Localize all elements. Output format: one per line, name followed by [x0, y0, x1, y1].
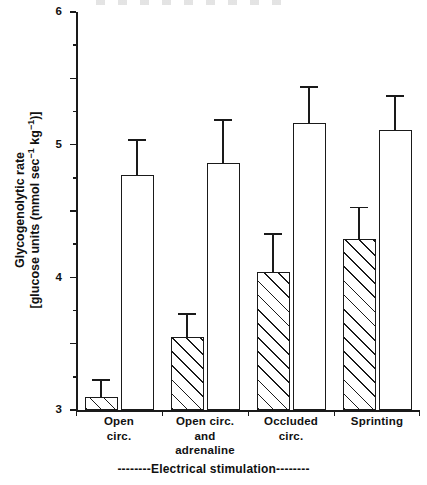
y-tick-minor	[73, 44, 77, 45]
bar	[257, 272, 290, 410]
y-axis-title-sup1: −1	[26, 148, 36, 158]
bar	[85, 397, 118, 410]
error-bar-stem	[272, 234, 274, 272]
y-axis-line	[76, 12, 78, 410]
error-bar-cap	[178, 313, 196, 315]
error-bar-stem	[394, 96, 396, 130]
y-axis-title-line2-post: )]	[28, 112, 42, 120]
error-bar-cap	[92, 379, 110, 381]
x-group-label-line: adrenaline	[150, 443, 260, 458]
x-group-label-line: Sprinting	[322, 414, 427, 429]
footer-note: --------Electrical stimulation--------	[0, 462, 427, 476]
error-bar-cap	[300, 86, 318, 88]
y-tick-major: 6	[70, 11, 76, 12]
error-bar-cap	[386, 95, 404, 97]
scan-artifact	[96, 0, 286, 5]
bar	[293, 123, 326, 410]
y-axis-title-sup2: −1	[26, 120, 36, 130]
y-tick-label: 3	[56, 403, 62, 415]
y-axis-title-line2-mid: kg	[28, 130, 42, 148]
x-group-label-line: circ.	[236, 429, 346, 444]
y-tick-major: 5	[70, 78, 76, 79]
y-tick-minor	[73, 177, 77, 178]
bar	[207, 163, 240, 410]
y-tick-major: 1	[70, 343, 76, 344]
error-bar-cap	[214, 119, 232, 121]
error-bar-cap	[264, 233, 282, 235]
error-bar-stem	[222, 120, 224, 163]
error-bar-cap	[350, 207, 368, 209]
y-tick-minor	[73, 243, 77, 244]
bar	[171, 337, 204, 410]
y-axis-title: Glycogenolytic rate [glucose units (mmol…	[0, 0, 56, 420]
error-bar-stem	[100, 380, 102, 397]
y-tick-label: 4	[56, 271, 62, 283]
y-tick-major: 2	[70, 277, 76, 278]
error-bar-stem	[186, 314, 188, 337]
y-tick-major: 3	[70, 210, 76, 211]
y-tick-label: 6	[56, 5, 62, 17]
figure: Glycogenolytic rate [glucose units (mmol…	[0, 0, 427, 485]
y-axis-title-line2: [glucose units (mmol sec−1 kg−1)]	[28, 112, 43, 309]
y-tick-minor	[73, 310, 77, 311]
error-bar-cap	[128, 139, 146, 141]
y-axis-title-line1: Glycogenolytic rate	[13, 112, 28, 309]
bar	[379, 130, 412, 410]
bar	[121, 175, 154, 410]
x-group-label: Sprinting	[322, 414, 427, 429]
y-tick-label: 5	[56, 138, 62, 150]
error-bar-stem	[308, 87, 310, 123]
y-tick-major: 4	[70, 144, 76, 145]
error-bar-stem	[358, 208, 360, 239]
error-bar-stem	[136, 140, 138, 174]
plot-area: 0123456	[76, 12, 420, 410]
y-tick-minor	[73, 111, 77, 112]
bar	[343, 239, 376, 410]
y-axis-title-line2-pre: [glucose units (mmol sec	[28, 158, 42, 308]
y-tick-minor	[73, 376, 77, 377]
